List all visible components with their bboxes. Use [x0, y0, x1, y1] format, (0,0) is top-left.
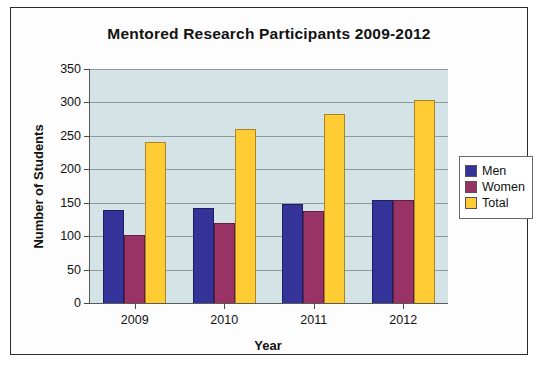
bar-men-2010[interactable] — [193, 208, 214, 303]
y-tick-label: 100 — [60, 229, 81, 243]
bar-total-2012[interactable] — [414, 100, 435, 303]
y-tick-label: 250 — [60, 129, 81, 143]
y-tick-label: 350 — [60, 62, 81, 76]
x-tick-label-2012: 2012 — [359, 313, 449, 327]
x-tick-mark — [314, 303, 315, 309]
x-tick-mark — [135, 303, 136, 309]
chart-frame: Mentored Research Participants 2009-2012… — [10, 7, 528, 355]
y-axis-title-label: Number of Students — [31, 124, 46, 248]
bar-total-2009[interactable] — [145, 142, 166, 303]
y-tick-mark — [84, 303, 90, 304]
x-tick-label-2009: 2009 — [90, 313, 180, 327]
bar-group-2010: 2010 — [180, 69, 270, 303]
y-axis-title: Number of Students — [29, 69, 47, 303]
bar-women-2011[interactable] — [303, 211, 324, 303]
y-tick-label: 150 — [60, 196, 81, 210]
legend-label-total: Total — [482, 196, 508, 210]
bars-layer: 2009201020112012 — [90, 69, 448, 303]
bar-group-2011: 2011 — [269, 69, 359, 303]
bar-women-2012[interactable] — [393, 200, 414, 303]
legend-label-men: Men — [482, 164, 506, 178]
legend-item-women[interactable]: Women — [465, 180, 525, 194]
legend-swatch-women — [465, 181, 477, 193]
bar-group-2012: 2012 — [359, 69, 449, 303]
plot-area: 050100150200250300350 2009201020112012 — [89, 69, 448, 304]
y-tick-label: 50 — [67, 263, 81, 277]
y-tick-label: 300 — [60, 95, 81, 109]
x-tick-mark — [224, 303, 225, 309]
bar-men-2009[interactable] — [103, 210, 124, 303]
legend-label-women: Women — [482, 180, 525, 194]
bar-women-2009[interactable] — [124, 235, 145, 303]
legend-swatch-men — [465, 165, 477, 177]
bar-group-2009: 2009 — [90, 69, 180, 303]
y-tick-label: 0 — [74, 296, 81, 310]
bar-women-2010[interactable] — [214, 223, 235, 303]
chart-title: Mentored Research Participants 2009-2012 — [11, 25, 527, 43]
legend-item-total[interactable]: Total — [465, 196, 525, 210]
x-tick-label-2010: 2010 — [180, 313, 270, 327]
bar-total-2010[interactable] — [235, 129, 256, 303]
legend-swatch-total — [465, 197, 477, 209]
x-tick-mark — [403, 303, 404, 309]
x-axis-title: Year — [89, 338, 447, 353]
x-tick-label-2011: 2011 — [269, 313, 359, 327]
chart-legend: MenWomenTotal — [459, 156, 533, 219]
bar-men-2011[interactable] — [282, 204, 303, 303]
y-tick-label: 200 — [60, 162, 81, 176]
legend-item-men[interactable]: Men — [465, 164, 525, 178]
bar-total-2011[interactable] — [324, 114, 345, 303]
bar-men-2012[interactable] — [372, 200, 393, 303]
